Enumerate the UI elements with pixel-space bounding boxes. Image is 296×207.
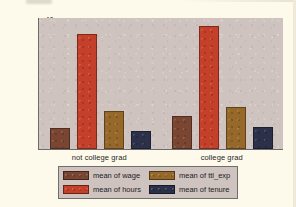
legend-swatch <box>149 185 175 194</box>
legend-swatch <box>149 171 175 180</box>
chart-figure: 010203040 not college gradcollege grad m… <box>0 0 296 207</box>
x-axis-label: not college grad <box>72 153 127 162</box>
legend-item[interactable]: mean of wage <box>63 170 147 182</box>
bar-texture <box>132 132 150 148</box>
legend-swatch-texture <box>64 172 88 179</box>
bar <box>131 131 151 149</box>
bar-texture <box>173 117 191 148</box>
legend-item[interactable]: mean of hours <box>63 183 147 195</box>
bar <box>172 116 192 149</box>
bar-texture <box>105 112 123 148</box>
bar-texture <box>78 35 96 148</box>
legend-label: mean of tenure <box>179 186 229 194</box>
legend-swatch-texture <box>64 186 88 193</box>
legend-item[interactable]: mean of tenure <box>149 183 233 195</box>
legend-swatch <box>63 171 89 180</box>
plot-area <box>38 18 283 150</box>
bar <box>226 107 246 149</box>
bar <box>253 127 273 149</box>
paper-grain <box>39 18 283 149</box>
figure-right-edge <box>293 0 296 207</box>
bar <box>104 111 124 149</box>
bar-texture <box>254 128 272 148</box>
legend-item[interactable]: mean of ttl_exp <box>149 170 233 182</box>
legend-swatch-texture <box>150 172 174 179</box>
x-axis-label: college grad <box>201 153 243 162</box>
plot-wrapper: 010203040 <box>30 18 283 151</box>
legend-label: mean of hours <box>93 186 141 194</box>
bar <box>199 26 219 149</box>
legend-label: mean of wage <box>93 172 140 180</box>
legend-label: mean of ttl_exp <box>179 172 230 180</box>
bar-texture <box>227 108 245 148</box>
bar <box>77 34 97 149</box>
bar <box>50 128 70 149</box>
bar-texture <box>51 129 69 148</box>
chart-legend: mean of wagemean of ttl_expmean of hours… <box>58 166 238 199</box>
x-axis-labels: not college gradcollege grad <box>38 153 283 165</box>
legend-swatch <box>63 185 89 194</box>
bar-texture <box>200 27 218 148</box>
scan-artifact <box>26 0 52 4</box>
legend-swatch-texture <box>150 186 174 193</box>
